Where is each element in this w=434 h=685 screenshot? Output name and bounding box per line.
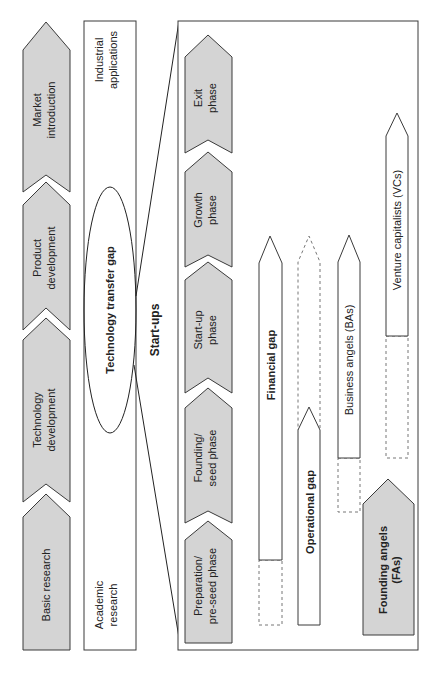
phase-label: Preparation/	[192, 555, 204, 616]
phase-label: Exit	[192, 89, 204, 107]
stage-label: development	[45, 389, 57, 452]
startup-financing-diagram: Basic research Technology development Pr…	[0, 0, 434, 685]
phase-label: Start-up	[192, 310, 204, 349]
phase-label: seed phase	[206, 430, 218, 487]
stage-label: Basic research	[40, 549, 52, 622]
innovation-stages: Basic research Technology development Pr…	[23, 22, 70, 650]
stage-label: development	[45, 227, 57, 290]
financial-gap-label: Financial gap	[265, 330, 277, 401]
venture-capitalists-label: Venture capitalists (VCs)	[391, 170, 403, 290]
founding-angels-label: (FAs)	[390, 556, 402, 584]
research-bar: Academic research Industrial application…	[84, 21, 136, 650]
industrial-applications-label: Industrial	[93, 38, 105, 83]
stage-label: introduction	[45, 82, 57, 139]
phase-label: phase	[206, 83, 218, 113]
business-angels-label: Business angels (BAs)	[343, 305, 355, 416]
phase-label: phase	[206, 195, 218, 225]
stage-label: Product	[31, 239, 43, 277]
startups-label: Start-ups	[148, 303, 162, 356]
academic-research-label: Academic	[93, 580, 105, 629]
founding-angels-label: Founding angels	[377, 526, 389, 614]
academic-research-label: research	[107, 584, 119, 627]
phase-label: phase	[206, 315, 218, 345]
founding-angels-arrow: Founding angels (FAs)	[363, 479, 414, 635]
operational-gap-arrow: Operational gap	[298, 407, 320, 625]
phase-label: Growth	[192, 192, 204, 227]
industrial-applications-label: applications	[107, 30, 119, 89]
phase-label: Founding/	[192, 433, 204, 483]
stage-label: Technology	[31, 392, 43, 448]
stage-label: Market	[31, 93, 43, 127]
operational-gap-label: Operational gap	[304, 470, 316, 554]
startup-phases: Preparation/ pre-seed phase Founding/ se…	[185, 35, 232, 643]
phase-label: pre-seed phase	[206, 548, 218, 624]
technology-transfer-gap-label: Technology transfer gap	[104, 246, 116, 374]
